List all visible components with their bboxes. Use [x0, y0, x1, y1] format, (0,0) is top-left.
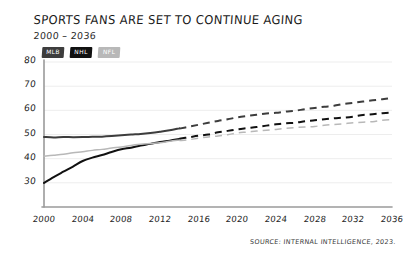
y-axis-tick-50: 50 — [13, 128, 36, 138]
y-axis-tick-80: 80 — [13, 55, 36, 65]
x-axis-tick-2032: 2032 — [336, 214, 371, 224]
y-axis-tick-30: 30 — [13, 176, 36, 186]
x-axis-tick-2004: 2004 — [65, 214, 100, 224]
x-axis-tick-2020: 2020 — [220, 214, 255, 224]
series-line-nhl-historical — [44, 140, 179, 156]
x-axis-tick-2036: 2036 — [374, 214, 406, 224]
series-line-mlb-historical — [44, 128, 179, 137]
y-axis-tick-70: 70 — [13, 79, 36, 89]
x-axis-tick-2024: 2024 — [258, 214, 293, 224]
source-note: SOURCE: INTERNAL INTELLIGENCE, 2023. — [250, 238, 396, 246]
x-axis-tick-2016: 2016 — [181, 214, 216, 224]
y-axis-tick-40: 40 — [13, 152, 36, 162]
x-axis-tick-2028: 2028 — [297, 214, 332, 224]
series-line-nfl-historical — [44, 139, 179, 183]
x-axis-tick-2012: 2012 — [142, 214, 177, 224]
x-axis-tick-2008: 2008 — [104, 214, 139, 224]
x-axis-tick-2000: 2000 — [26, 214, 61, 224]
series-line-mlb-forecast — [179, 98, 392, 129]
y-axis-tick-60: 60 — [13, 103, 36, 113]
series-line-nhl-forecast — [179, 120, 392, 141]
chart-card: SPORTS FANS ARE SET TO CONTINUE AGING 20… — [0, 0, 406, 256]
